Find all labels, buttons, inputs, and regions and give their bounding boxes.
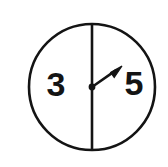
sector-label-left: 3: [47, 65, 66, 103]
spinner-canvas: 3 5: [0, 0, 168, 167]
pointer-pivot-dot: [89, 84, 96, 91]
spinner-figure: 3 5: [0, 0, 168, 167]
sector-label-right: 5: [125, 64, 144, 102]
